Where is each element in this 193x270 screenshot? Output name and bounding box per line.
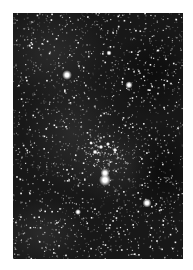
faint-star	[103, 136, 105, 138]
faint-star	[78, 122, 79, 123]
faint-star	[49, 235, 50, 236]
faint-star	[117, 199, 118, 200]
faint-star	[28, 132, 29, 133]
faint-star	[87, 157, 88, 158]
faint-star	[159, 248, 160, 249]
faint-star	[179, 220, 180, 221]
faint-star	[155, 151, 156, 152]
faint-star	[113, 236, 114, 237]
faint-star	[158, 187, 159, 188]
faint-star	[178, 82, 179, 83]
faint-star	[63, 83, 64, 84]
faint-star	[77, 251, 78, 252]
faint-star	[91, 207, 92, 208]
faint-star	[86, 171, 87, 172]
faint-star	[75, 134, 76, 135]
faint-star	[65, 26, 66, 27]
faint-star	[129, 200, 130, 201]
faint-star	[182, 146, 183, 147]
faint-star	[61, 95, 62, 96]
faint-star	[108, 163, 109, 164]
faint-star	[119, 179, 120, 180]
faint-star	[53, 175, 54, 176]
faint-star	[65, 243, 66, 244]
faint-star	[31, 42, 33, 44]
faint-star	[82, 39, 83, 40]
faint-star	[26, 80, 28, 82]
faint-star	[120, 90, 121, 91]
faint-star	[15, 240, 16, 241]
faint-star	[141, 158, 143, 160]
faint-star	[122, 118, 123, 119]
faint-star	[162, 47, 163, 48]
faint-star	[162, 192, 163, 193]
faint-star	[47, 225, 48, 226]
faint-star	[48, 29, 49, 30]
faint-star	[130, 180, 131, 181]
faint-star	[120, 152, 121, 153]
faint-star	[110, 108, 111, 109]
faint-star	[142, 35, 143, 36]
faint-star	[40, 162, 41, 163]
faint-star	[15, 65, 16, 66]
faint-star	[145, 127, 146, 128]
faint-star	[75, 78, 76, 79]
faint-star	[147, 225, 148, 226]
faint-star	[156, 72, 157, 73]
faint-star	[63, 255, 64, 256]
faint-star	[112, 145, 113, 146]
faint-star	[127, 106, 128, 107]
faint-star	[25, 241, 26, 242]
faint-star	[164, 177, 165, 178]
faint-star	[78, 179, 79, 180]
faint-star	[89, 255, 90, 256]
faint-star	[53, 249, 54, 250]
faint-star	[13, 81, 14, 82]
faint-star	[39, 210, 40, 211]
faint-star	[71, 249, 72, 250]
faint-star	[78, 19, 79, 20]
faint-star	[39, 22, 40, 23]
faint-star	[35, 131, 36, 132]
faint-star	[26, 113, 27, 114]
faint-star	[162, 164, 164, 166]
faint-star	[31, 35, 32, 36]
faint-star	[72, 90, 73, 91]
faint-star	[165, 177, 166, 178]
faint-star	[129, 13, 130, 14]
faint-star	[136, 255, 137, 256]
faint-star	[150, 64, 152, 66]
faint-star	[65, 255, 67, 257]
faint-star	[122, 155, 124, 157]
faint-star	[149, 234, 150, 235]
faint-star	[150, 102, 151, 103]
faint-star	[53, 60, 54, 61]
faint-star	[150, 158, 151, 159]
faint-star	[49, 257, 50, 258]
faint-star	[172, 140, 173, 141]
faint-star	[91, 27, 92, 28]
faint-star	[45, 109, 46, 110]
faint-star	[154, 29, 155, 30]
faint-star	[149, 175, 150, 176]
faint-star	[88, 244, 89, 245]
faint-star	[137, 15, 138, 16]
faint-star	[111, 83, 112, 84]
faint-star	[77, 61, 78, 62]
faint-star	[148, 145, 149, 146]
faint-star	[32, 183, 33, 184]
faint-star	[109, 135, 111, 137]
faint-star	[151, 41, 152, 42]
faint-star	[139, 25, 140, 26]
faint-star	[16, 176, 18, 178]
faint-star	[60, 240, 61, 241]
faint-star	[112, 96, 113, 97]
faint-star	[130, 247, 131, 248]
faint-star	[77, 237, 78, 238]
faint-star	[22, 179, 23, 180]
faint-star	[115, 174, 116, 175]
faint-star	[145, 221, 146, 222]
faint-star	[61, 79, 62, 80]
faint-star	[52, 72, 53, 73]
faint-star	[165, 56, 166, 57]
